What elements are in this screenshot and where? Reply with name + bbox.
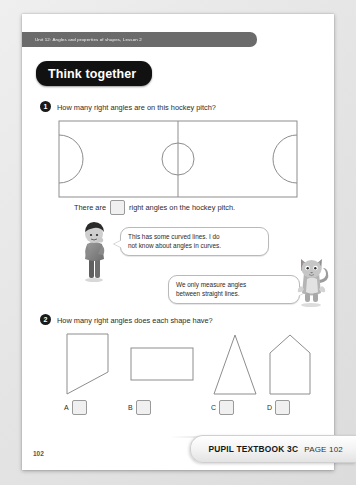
think-together-banner: Think together (36, 61, 152, 86)
question-1-text: How many right angles are on this hockey… (57, 103, 216, 112)
speech-bubble-child-line-1: This has some curved lines. I do (128, 232, 261, 241)
unit-running-head: Unit 12: Angles and properties of shapes… (22, 32, 257, 47)
shape-answer-b: B (128, 400, 151, 415)
shape-answer-box-a[interactable] (72, 400, 87, 415)
question-1-number: 1 (40, 101, 51, 112)
answer-sentence-prefix: There are (74, 203, 106, 212)
footer-book-label: PUPIL TEXTBOOK 3C (208, 444, 298, 454)
cat-character-illustration (292, 255, 332, 311)
shape-label-d: D (267, 404, 272, 411)
question-2-text: How many right angles does each shape ha… (57, 316, 213, 325)
page-folio-number: 102 (33, 450, 44, 457)
shape-a-right-trapezium (67, 334, 108, 394)
speech-bubble-cat-line-1: We only measure angles (176, 280, 292, 289)
shape-answer-a: A (64, 400, 87, 415)
think-together-label: Think together (48, 67, 136, 81)
shape-label-a: A (64, 404, 69, 411)
footer-page-label: PAGE 102 (304, 445, 343, 454)
question-1-number-label: 1 (44, 103, 48, 110)
hockey-pitch-figure (58, 120, 298, 202)
textbook-page: Unit 12: Angles and properties of shapes… (22, 14, 334, 470)
shape-label-b: B (128, 404, 133, 411)
speech-bubble-child-line-2: not know about angles in curves. (128, 241, 261, 250)
shape-c-triangle (214, 335, 256, 394)
speech-bubble-cat-line-2: between straight lines. (176, 289, 292, 298)
footer-book-tab: PUPIL TEXTBOOK 3C PAGE 102 (190, 435, 356, 463)
child-character-illustration (78, 220, 112, 286)
speech-bubble-cat: We only measure angles between straight … (168, 275, 300, 304)
answer-sentence-suffix: right angles on the hockey pitch. (129, 203, 235, 212)
shape-b-rectangle (131, 348, 193, 380)
shape-answer-box-b[interactable] (136, 400, 151, 415)
speech-bubble-child: This has some curved lines. I do not kno… (120, 227, 269, 256)
question-2-number: 2 (40, 314, 51, 325)
shape-answer-d: D (267, 400, 290, 415)
shape-label-c: C (211, 404, 216, 411)
shape-answer-box-c[interactable] (219, 400, 234, 415)
speech-bubble-child-tail (114, 240, 122, 248)
question-1-answer-sentence: There are right angles on the hockey pit… (74, 200, 235, 215)
shapes-figure-group (64, 332, 314, 400)
question-2-number-label: 2 (44, 316, 48, 323)
shape-answer-box-d[interactable] (275, 400, 290, 415)
screenshot-root: Unit 12: Angles and properties of shapes… (0, 0, 356, 485)
question-1-answer-box[interactable] (110, 200, 125, 215)
shape-answer-c: C (211, 400, 234, 415)
unit-running-head-label: Unit 12: Angles and properties of shapes… (22, 37, 142, 42)
shape-d-pentagon-house (270, 335, 310, 394)
